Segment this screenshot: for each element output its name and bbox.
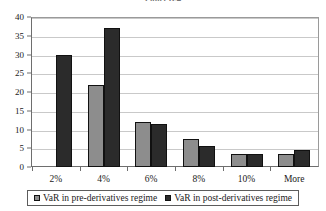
bar-chart-figure: Panel B.4 0510152025303540 2%4%6%8%10%Mo… bbox=[0, 0, 326, 211]
x-axis: 2%4%6%8%10%More bbox=[32, 167, 318, 187]
y-axis-tick-label: 30 bbox=[15, 50, 24, 59]
y-axis-tick-label: 20 bbox=[15, 88, 24, 97]
bar-pre[interactable] bbox=[183, 139, 199, 167]
chart-legend: VaR in pre-derivatives regimeVaR in post… bbox=[27, 190, 299, 206]
x-axis-tick-mark bbox=[270, 167, 271, 171]
bar-pre[interactable] bbox=[231, 154, 247, 167]
bar-group bbox=[223, 17, 271, 167]
bar-post[interactable] bbox=[199, 146, 215, 167]
bars-layer bbox=[32, 17, 318, 167]
y-axis-tick-label: 15 bbox=[15, 106, 24, 115]
x-axis-tick-label: 6% bbox=[127, 174, 175, 185]
x-axis-tick-label: 8% bbox=[175, 174, 223, 185]
y-axis-tick-label: 25 bbox=[15, 69, 24, 78]
x-axis-tick-label: 10% bbox=[223, 174, 271, 185]
x-axis-tick-mark bbox=[80, 167, 81, 171]
x-axis-group: 2% bbox=[32, 167, 80, 187]
y-axis-tick-label: 40 bbox=[15, 13, 24, 22]
x-axis-tick-label: 2% bbox=[32, 174, 80, 185]
bar-group bbox=[175, 17, 223, 167]
legend-item-label: VaR in pre-derivatives regime bbox=[43, 193, 157, 204]
bar-group bbox=[32, 17, 80, 167]
y-axis-tick-label: 35 bbox=[15, 31, 24, 40]
bar-pre[interactable] bbox=[135, 122, 151, 167]
legend-item[interactable]: VaR in post-derivatives regime bbox=[165, 193, 292, 204]
legend-swatch-icon bbox=[34, 195, 40, 201]
bar-post[interactable] bbox=[247, 154, 263, 167]
legend-swatch-icon bbox=[165, 195, 171, 201]
bar-post[interactable] bbox=[294, 150, 310, 167]
x-axis-tick-label: 4% bbox=[80, 174, 128, 185]
bar-pre[interactable] bbox=[88, 85, 104, 168]
bar-pre[interactable] bbox=[278, 154, 294, 167]
bar-group bbox=[80, 17, 128, 167]
x-axis-group: More bbox=[270, 167, 318, 187]
legend-item-label: VaR in post-derivatives regime bbox=[174, 193, 292, 204]
bar-post[interactable] bbox=[56, 55, 72, 168]
x-axis-tick-mark bbox=[175, 167, 176, 171]
legend-item[interactable]: VaR in pre-derivatives regime bbox=[34, 193, 157, 204]
x-axis-tick-mark bbox=[223, 167, 224, 171]
y-axis-tick-label: 0 bbox=[20, 163, 25, 172]
x-axis-group: 4% bbox=[80, 167, 128, 187]
bar-post[interactable] bbox=[104, 28, 120, 167]
x-axis-tick-mark bbox=[32, 167, 33, 171]
x-axis-group: 6% bbox=[127, 167, 175, 187]
x-axis-group: 10% bbox=[223, 167, 271, 187]
bar-group bbox=[270, 17, 318, 167]
page-title: Panel B.4 bbox=[0, 0, 326, 1]
y-axis-tick-label: 5 bbox=[20, 144, 25, 153]
y-axis-tick-label: 10 bbox=[15, 125, 24, 134]
x-axis-tick-label: More bbox=[270, 174, 318, 185]
bar-group bbox=[127, 17, 175, 167]
bar-post[interactable] bbox=[151, 124, 167, 167]
x-axis-group: 8% bbox=[175, 167, 223, 187]
y-axis: 0510152025303540 bbox=[0, 17, 31, 167]
x-axis-tick-mark bbox=[127, 167, 128, 171]
